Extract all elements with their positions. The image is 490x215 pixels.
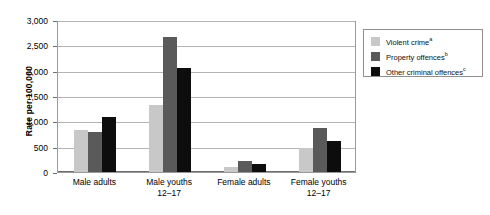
bar[interactable] xyxy=(149,105,163,172)
x-axis-tick-label: Male adults xyxy=(57,177,132,188)
legend-swatch-other-criminal-offences xyxy=(371,67,380,76)
y-axis-tick-label: 1,000 xyxy=(27,117,48,127)
bar[interactable] xyxy=(74,130,88,172)
legend-label-other-criminal-offences: Other criminal offencesc xyxy=(386,66,466,77)
x-axis-tick-label: Female youths12–17 xyxy=(281,177,356,199)
bar-groups xyxy=(58,22,355,172)
x-axis-tick-labels: Male adultsMale youths12–17Female adults… xyxy=(57,177,356,213)
legend-swatch-property-offences xyxy=(371,52,380,61)
y-axis-tick-mark xyxy=(53,173,57,174)
y-axis-tick-label: 2,000 xyxy=(27,67,48,77)
bar-group xyxy=(133,22,208,172)
bar-group xyxy=(58,22,133,172)
x-axis-tick-label: Male youths12–17 xyxy=(132,177,207,199)
bar[interactable] xyxy=(163,37,177,172)
legend-item[interactable]: Property offencesb xyxy=(371,50,482,63)
bar[interactable] xyxy=(327,141,341,172)
bar[interactable] xyxy=(177,68,191,172)
y-axis-tick-labels: 05001,0001,5002,0002,5003,000 xyxy=(0,0,53,215)
bar[interactable] xyxy=(313,128,327,172)
bar[interactable] xyxy=(88,132,102,172)
y-axis-tick-label: 0 xyxy=(43,168,48,178)
bar-chart: Rate per 100,000 05001,0001,5002,0002,50… xyxy=(0,0,490,215)
y-axis-tick-label: 2,500 xyxy=(27,41,48,51)
bar[interactable] xyxy=(252,164,266,172)
legend-label-violent-crime: Violent crimea xyxy=(386,36,432,47)
bar-group xyxy=(282,22,357,172)
y-axis-tick-label: 3,000 xyxy=(27,16,48,26)
bar[interactable] xyxy=(224,167,238,172)
legend: Violent crimea Property offencesb Other … xyxy=(363,29,483,77)
legend-item[interactable]: Other criminal offencesc xyxy=(371,65,482,78)
bar[interactable] xyxy=(102,117,116,172)
x-axis-tick-label: Female adults xyxy=(207,177,282,188)
plot-area xyxy=(57,21,356,173)
bar[interactable] xyxy=(238,161,252,172)
y-axis-tick-label: 500 xyxy=(34,143,48,153)
y-axis-tick-label: 1,500 xyxy=(27,92,48,102)
legend-swatch-violent-crime xyxy=(371,37,380,46)
legend-label-property-offences: Property offencesb xyxy=(386,51,448,62)
bar-group xyxy=(208,22,283,172)
legend-item[interactable]: Violent crimea xyxy=(371,35,482,48)
bar[interactable] xyxy=(299,148,313,172)
